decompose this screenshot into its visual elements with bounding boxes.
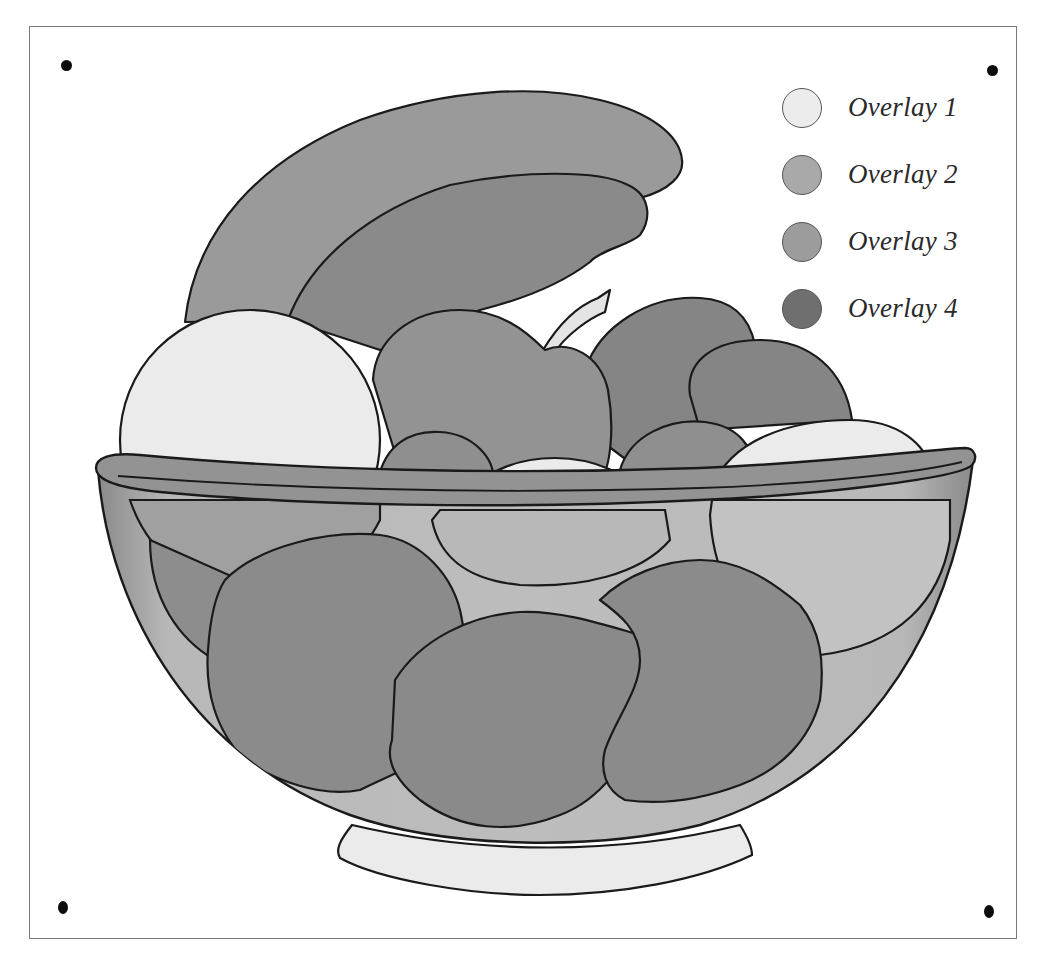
swatch-overlay-3-icon [782, 222, 822, 262]
legend-item-overlay-2: Overlay 2 [782, 141, 958, 208]
legend-item-overlay-4: Overlay 4 [782, 275, 958, 342]
swatch-overlay-4-icon [782, 289, 822, 329]
legend-label: Overlay 2 [848, 159, 958, 190]
swatch-overlay-1-icon [782, 88, 822, 128]
swatch-overlay-2-icon [782, 155, 822, 195]
legend-item-overlay-1: Overlay 1 [782, 74, 958, 141]
legend-label: Overlay 1 [848, 92, 958, 123]
legend-label: Overlay 4 [848, 293, 958, 324]
plum-right-top [689, 340, 852, 430]
legend-item-overlay-3: Overlay 3 [782, 208, 958, 275]
legend-label: Overlay 3 [848, 226, 958, 257]
legend: Overlay 1 Overlay 2 Overlay 3 Overlay 4 [782, 74, 958, 342]
